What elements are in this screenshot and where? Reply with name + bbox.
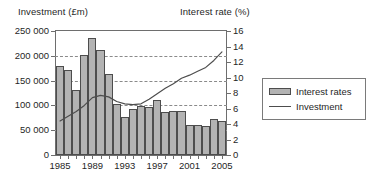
plot-area bbox=[55, 30, 227, 156]
right-axis-tick-2: 4 bbox=[233, 118, 238, 129]
legend-label-interest-rates: Interest rates bbox=[296, 86, 351, 97]
left-axis-title: Investment (£m) bbox=[18, 6, 88, 17]
right-axis-tick-7: 14 bbox=[233, 41, 244, 52]
left-axis-tick-0: 0 bbox=[44, 149, 49, 160]
right-tickmark bbox=[227, 140, 231, 141]
legend-item-interest-rates[interactable]: Interest rates bbox=[269, 84, 359, 99]
bar-swatch-icon bbox=[269, 88, 291, 95]
right-tickmark bbox=[227, 78, 231, 79]
x-axis-tick-1: 1989 bbox=[75, 160, 109, 171]
chart-legend: Interest rates Investment bbox=[262, 78, 366, 120]
right-tickmark bbox=[227, 124, 231, 125]
left-axis-tick-4: 200 000 bbox=[15, 50, 49, 61]
left-axis-tick-2: 100 000 bbox=[15, 99, 49, 110]
line-series-investment bbox=[55, 30, 227, 156]
chart-container: Investment (£m) Interest rate (%) 050 00… bbox=[0, 0, 374, 186]
investment-line-path bbox=[60, 52, 222, 121]
right-tickmark bbox=[227, 47, 231, 48]
x-axis-tick-0: 1985 bbox=[43, 160, 77, 171]
right-axis-tick-0: 0 bbox=[233, 149, 238, 160]
right-tickmark bbox=[227, 155, 231, 156]
line-swatch-icon bbox=[269, 103, 291, 110]
left-axis-tick-1: 50 000 bbox=[20, 124, 49, 135]
left-axis-tick-5: 250 000 bbox=[15, 25, 49, 36]
right-tickmark bbox=[227, 93, 231, 94]
right-axis-tick-5: 10 bbox=[233, 72, 244, 83]
legend-item-investment[interactable]: Investment bbox=[269, 99, 359, 114]
x-axis-tick-4: 2001 bbox=[173, 160, 207, 171]
right-tickmark bbox=[227, 31, 231, 32]
right-axis-tick-6: 12 bbox=[233, 56, 244, 67]
right-axis-tick-4: 8 bbox=[233, 87, 238, 98]
x-axis-tick-5: 2005 bbox=[205, 160, 239, 171]
right-tickmark bbox=[227, 62, 231, 63]
right-axis-tick-8: 16 bbox=[233, 25, 244, 36]
right-axis-tick-3: 6 bbox=[233, 103, 238, 114]
right-axis-tick-1: 2 bbox=[233, 134, 238, 145]
legend-label-investment: Investment bbox=[296, 101, 342, 112]
left-axis-tick-3: 150 000 bbox=[15, 75, 49, 86]
right-tickmark bbox=[227, 109, 231, 110]
x-axis-tick-3: 1997 bbox=[140, 160, 174, 171]
right-axis-title: Interest rate (%) bbox=[180, 6, 250, 17]
x-axis-tick-2: 1993 bbox=[108, 160, 142, 171]
